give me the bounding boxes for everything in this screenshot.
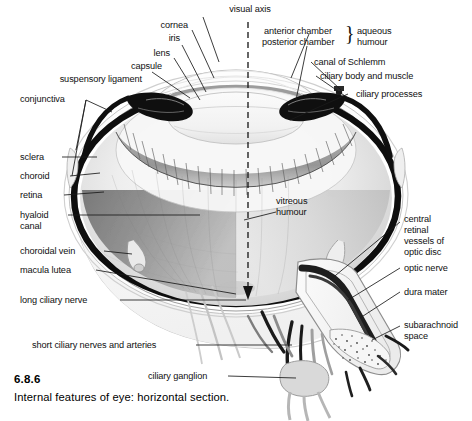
brace-aqueous-humour: } xyxy=(345,23,355,43)
label-retina: retina xyxy=(20,190,42,201)
label-posterior-chamber: posterior chamber xyxy=(262,37,334,48)
label-hyaloid-canal-line1: hyaloid xyxy=(20,210,48,221)
label-choroidal-vein: choroidal vein xyxy=(20,246,75,257)
label-long-ciliary-nerve: long ciliary nerve xyxy=(20,295,87,306)
label-anterior-chamber: anterior chamber xyxy=(264,26,332,37)
label-central-retinal-line3: vessels of xyxy=(404,236,444,247)
label-subarachnoid-line2: space xyxy=(404,331,428,342)
label-vitreous-humour-line1: vitreous xyxy=(276,196,307,207)
label-macula-lutea: macula lutea xyxy=(20,265,71,276)
label-suspensory-ligament: suspensory ligament xyxy=(32,74,142,85)
figure-eye-horizontal-section: visual axis cornea iris lens capsule sus… xyxy=(0,0,472,421)
label-lens: lens xyxy=(110,48,170,59)
label-central-retinal-line4: optic disc xyxy=(404,247,441,258)
label-short-ciliary-nerves-and-arteries: short ciliary nerves and arteries xyxy=(32,340,156,351)
label-conjunctiva: conjunctiva xyxy=(20,94,65,105)
figure-number: 6.8.6 xyxy=(14,373,41,385)
label-subarachnoid-line1: subarachnoid xyxy=(404,320,458,331)
label-aqueous-humour-line2: humour xyxy=(357,37,388,48)
label-ciliary-ganglion: ciliary ganglion xyxy=(148,371,207,382)
label-ciliary-body-and-muscle: ciliary body and muscle xyxy=(320,71,413,82)
label-vitreous-humour-line2: humour xyxy=(276,207,307,218)
label-visual-axis: visual axis xyxy=(213,4,287,15)
label-optic-nerve: optic nerve xyxy=(404,263,448,274)
figure-caption: Internal features of eye: horizontal sec… xyxy=(14,391,229,403)
label-sclera: sclera xyxy=(20,152,44,163)
label-canal-of-schlemm: canal of Schlemm xyxy=(314,57,385,68)
label-ciliary-processes: ciliary processes xyxy=(356,89,422,100)
label-cornea: cornea xyxy=(128,20,188,31)
label-hyaloid-canal-line2: canal xyxy=(20,221,41,232)
label-iris: iris xyxy=(128,33,180,44)
eye-anatomy-illustration xyxy=(0,0,472,421)
label-central-retinal-line1: central xyxy=(404,214,431,225)
label-choroid: choroid xyxy=(20,171,49,182)
label-dura-mater: dura mater xyxy=(404,287,447,298)
label-central-retinal-line2: retinal xyxy=(404,225,428,236)
label-aqueous-humour-line1: aqueous xyxy=(357,26,392,37)
ciliary-ganglion xyxy=(280,361,330,421)
lens xyxy=(168,92,304,144)
label-capsule: capsule xyxy=(84,61,162,72)
